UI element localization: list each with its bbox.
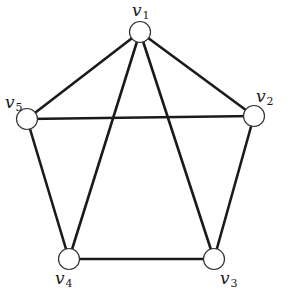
edge-v2-v3 <box>214 116 254 259</box>
graph-diagram: v1v2v3v4v5 <box>0 0 308 290</box>
label-letter: v <box>5 92 15 112</box>
label-subscript: 5 <box>16 101 23 114</box>
label-letter: v <box>256 86 266 106</box>
edge-v1-v5 <box>27 32 140 119</box>
edge-v1-v2 <box>140 32 254 116</box>
label-v5: v5 <box>5 94 23 113</box>
label-subscript: 2 <box>267 95 274 108</box>
edge-v1-v4 <box>69 32 140 259</box>
label-letter: v <box>132 0 142 20</box>
edges <box>27 32 254 259</box>
label-v4: v4 <box>55 270 73 289</box>
node-v1 <box>130 22 151 43</box>
node-v3 <box>204 249 225 270</box>
label-v1: v1 <box>132 2 150 21</box>
nodes <box>17 22 265 270</box>
label-v3: v3 <box>220 270 238 289</box>
label-subscript: 1 <box>143 9 150 22</box>
graph-canvas <box>0 0 308 290</box>
node-v4 <box>59 249 80 270</box>
label-letter: v <box>55 268 65 288</box>
edge-v1-v3 <box>140 32 214 259</box>
label-subscript: 4 <box>66 277 73 290</box>
edge-v5-v2 <box>27 116 254 119</box>
label-v2: v2 <box>256 88 274 107</box>
label-subscript: 3 <box>231 277 238 290</box>
edge-v5-v4 <box>27 119 69 259</box>
label-letter: v <box>220 268 230 288</box>
node-v2 <box>244 106 265 127</box>
